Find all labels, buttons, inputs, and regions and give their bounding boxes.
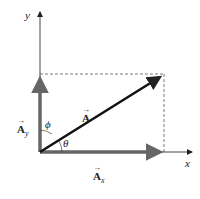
component-ay-label: →Ay <box>17 124 29 138</box>
vector-a-label: →A <box>82 113 90 124</box>
component-ax-label: →Ax <box>93 171 105 185</box>
phi-arc <box>40 130 52 134</box>
x-axis-label: x <box>185 158 190 169</box>
vector-components-diagram: y x →A →Ay →Ax ϕ θ <box>0 0 200 199</box>
vector-a <box>40 77 160 152</box>
y-axis-label: y <box>25 10 30 21</box>
theta-label: θ <box>63 138 68 149</box>
phi-label: ϕ <box>45 119 51 130</box>
